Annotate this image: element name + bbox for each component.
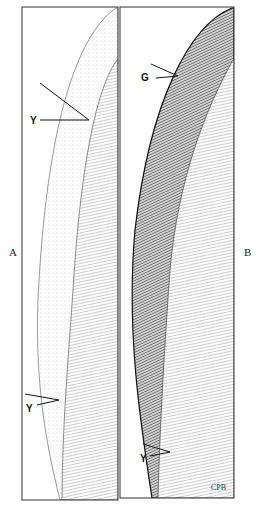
panel-a: [22, 7, 118, 500]
artist-signature: CPB: [211, 483, 226, 492]
panel-b: [120, 7, 234, 498]
svg-text:Y: Y: [140, 453, 147, 464]
svg-text:Y: Y: [30, 115, 37, 126]
svg-text:G: G: [141, 72, 149, 83]
figure-illustration: Y Y G Y CPB: [0, 0, 264, 508]
svg-text:Y: Y: [26, 403, 33, 414]
